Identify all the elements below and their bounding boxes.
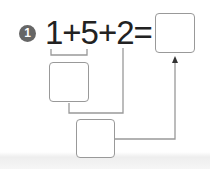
step1-box[interactable] bbox=[49, 62, 89, 102]
line-to-answer bbox=[115, 62, 175, 139]
step2-box[interactable] bbox=[76, 119, 115, 158]
problem-number-badge: 1 bbox=[19, 25, 36, 42]
arrow-up-icon bbox=[172, 56, 178, 63]
math-expression: 1+5+2= bbox=[45, 15, 152, 51]
answer-box[interactable] bbox=[155, 13, 195, 53]
